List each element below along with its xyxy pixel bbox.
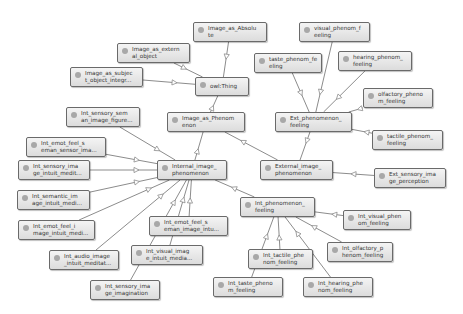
subclass-edge [324,71,365,112]
class-circle-icon [280,117,286,123]
class-circle-icon [75,72,81,78]
class-circle-icon [377,135,383,141]
inheritance-arrow-icon [171,200,176,206]
node-label-line1: Int_hearing_phe [318,280,369,287]
node-label-line2: eman_image_intu... [164,226,224,233]
node-label-line2: al_object [132,53,186,60]
inheritance-arrow-icon [187,198,192,203]
subclass-edge [296,217,342,242]
inheritance-arrow-icon [277,235,282,240]
inheritance-arrow-icon [134,167,139,172]
class-node-int-olfactory-phenom-feeling[interactable]: Int_olfactory_phenom_feeling [327,242,393,262]
class-node-int-emot-feel-image-intuit-medi[interactable]: Int_emot_feel_image_intuit_medi... [18,220,95,240]
subclass-edge [120,127,175,160]
node-label-line1: External_image_ [275,163,329,170]
inheritance-arrow-icon [296,231,301,237]
class-node-int-phenomenon-feeling[interactable]: Int_phenomenon_feeling [240,197,315,217]
node-label-line1: Int_emot_feel_i [33,223,91,230]
subclass-edge [174,63,203,77]
class-node-int-visual-image-intuit-media[interactable]: Int_visual_image_intuit_media... [131,245,203,265]
node-label-line1: Int_sensory_ima [105,283,156,290]
class-node-image-as-absolute[interactable]: Image_as_Absolute [193,22,267,42]
inheritance-arrow-icon [224,54,229,59]
inheritance-arrow-icon [172,80,177,85]
node-label-line2: te [208,32,263,39]
class-circle-icon [172,117,178,123]
node-label-line1: visual_phenom_f [314,25,366,32]
node-label-line2: m_feeling [378,98,429,105]
class-node-int-sensory-image-intuit-medit[interactable]: Int_sensory_image_intuit_medit... [18,160,90,180]
node-label-line1: owl:Thing [210,83,245,90]
node-label-line2: ge_perception [389,178,442,185]
class-node-int-emot-feel-semantic-image-intu[interactable]: Int_emot_feel_seman_image_intu... [149,216,228,236]
inheritance-arrow-icon [351,172,356,177]
subclass-edge [225,132,278,160]
node-label-line1: Internal_image_ [172,163,223,170]
node-label-line1: Ext_sensory_ima [389,171,442,178]
class-node-internal-image-phenomenon[interactable]: Internal_image_phenomenon [157,160,227,180]
subclass-edge [300,132,310,160]
node-label-line1: Int_visual_imag [146,248,199,255]
class-node-image-as-subject-object[interactable]: Image_as_subject_object_integr... [70,67,143,87]
class-circle-icon [122,48,128,54]
class-circle-icon [71,112,77,118]
class-node-int-hearing-phenom-feeling[interactable]: Int_hearing_phenom_feeling [303,277,373,297]
node-label-line1: Int_emot_feel_s [164,219,224,226]
inheritance-arrow-icon [241,140,247,145]
class-node-visual-phenom-feeling[interactable]: visual_phenom_feeling [299,22,370,42]
class-node-external-image-phenomenon[interactable]: External_image_phenomenon [260,160,333,180]
class-circle-icon [54,255,60,261]
inheritance-arrow-icon [209,106,214,112]
inheritance-arrow-icon [305,138,310,144]
node-label-line2: eman_sensor_ima... [41,147,102,154]
class-circle-icon [332,247,338,253]
class-node-int-tactile-phenom-feeling[interactable]: Int_tactile_phenom_feeling [248,249,313,269]
inheritance-arrow-icon [134,180,139,185]
node-label-line2: feeling [353,61,408,68]
node-label-line1: Image_as_Phenom [182,115,241,122]
node-label-line2: enon [182,122,241,129]
node-label-line1: Int_phenomenon_ [255,200,311,207]
class-node-olfactory-phenom-feeling[interactable]: olfactory_phenom_feeling [363,88,433,108]
inheritance-arrow-icon [319,89,324,94]
class-node-image-as-phenomenon[interactable]: Image_as_Phenomenon [167,112,245,132]
node-label-line1: Int_olfactory_p [342,245,389,252]
class-node-int-audio-image-intuit-meditat[interactable]: Int_audio_image_intuit_meditat... [49,250,119,270]
class-circle-icon [368,93,374,99]
subclass-edge [278,217,280,249]
subclass-edge [106,154,157,163]
class-node-taste-phenom-feeling[interactable]: taste_phenom_feeling [254,53,322,73]
class-circle-icon [95,285,101,291]
node-label-line1: olfactory_pheno [378,91,429,98]
node-label-line2: ge_intuit_medit... [33,170,86,177]
node-label-line1: Int_sensory_ima [33,163,86,170]
class-node-int-sensory-semantic-image-figure[interactable]: Int_sensory_seman_image_figure... [66,107,140,127]
node-label-line2: feeling [255,207,311,214]
node-label-line2: phenomenon [172,170,223,177]
class-circle-icon [200,82,206,88]
class-node-hearing-phenom-feeling[interactable]: hearing_phenom_feeling [338,51,412,71]
class-node-image-as-external-object[interactable]: Image_as_external_object [117,43,190,63]
node-label-line1: Int_visual_phen [358,213,407,220]
class-node-owl-thing[interactable]: owl:Thing [195,77,249,96]
node-label-line1: Image_as_extern [132,46,186,53]
subclass-edge [143,80,195,84]
class-node-int-visual-phenom-feeling[interactable]: Int_visual_phenom_feeling [343,210,411,230]
class-node-int-emot-feel-semantic-sensor[interactable]: Int_emot_feel_seman_sensor_ima... [26,137,106,157]
class-node-ext-phenomenon-feeling[interactable]: Ext_phenomenon_feeling [275,112,352,132]
node-label-line1: Int_semantic_im [32,193,86,200]
node-label-line2: nom_feeling [263,259,309,266]
class-circle-icon [343,56,349,62]
subclass-edge [315,212,343,216]
node-label-line2: nom_feeling [318,287,369,294]
class-node-int-semantic-image-intuit-medi[interactable]: Int_semantic_image_intuit_medi... [17,190,90,210]
node-label-line1: hearing_phenom_ [353,54,408,61]
node-label-line1: Int_emot_feel_s [41,140,102,147]
class-node-tactile-phenom-feeling[interactable]: tactile_phenom_feeling [372,130,443,150]
class-node-int-taste-phenom-feeling[interactable]: Int_taste_phenom_feeling [213,277,283,297]
class-node-int-sensory-image-imagination[interactable]: Int_sensory_image_imagination [90,280,160,300]
subclass-edge [195,132,203,160]
inheritance-arrow-icon [298,90,303,96]
node-label-line1: Image_as_Absolu [208,25,263,32]
class-node-ext-sensory-image-perception[interactable]: Ext_sensory_image_perception [374,168,446,188]
